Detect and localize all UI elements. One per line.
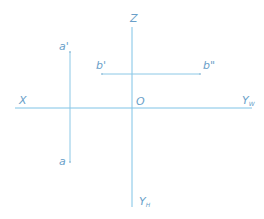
yh-axis-letter: Y	[139, 195, 146, 208]
b-double-prime-label: b"	[203, 60, 215, 71]
x-axis-label: X	[19, 95, 27, 106]
point-b-prime	[101, 73, 103, 75]
origin-label: O	[136, 96, 145, 107]
projection-lines	[0, 0, 264, 219]
b-prime-label: b'	[96, 60, 106, 71]
yw-axis-subscript: W	[249, 100, 255, 107]
projection-diagram: Z X O YW YH a' a b' b"	[0, 0, 264, 219]
point-a	[69, 161, 71, 163]
a-label: a	[59, 156, 66, 167]
point-a-prime	[69, 51, 71, 53]
yh-axis-label: YH	[139, 196, 150, 207]
yh-axis-subscript: H	[146, 201, 151, 208]
point-b-double-prime	[199, 73, 201, 75]
yw-axis-label: YW	[242, 95, 255, 106]
a-prime-label: a'	[59, 41, 69, 52]
yw-axis-letter: Y	[242, 94, 249, 107]
z-axis-label: Z	[130, 13, 138, 24]
